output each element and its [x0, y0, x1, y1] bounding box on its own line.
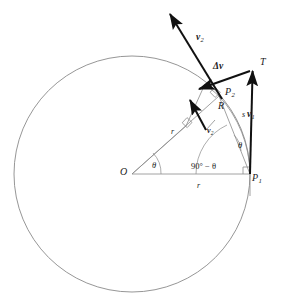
- label-angle-center-theta: θ: [152, 161, 156, 170]
- label-angle-p1-theta: θ: [238, 141, 242, 150]
- label-delta-v: Δv: [213, 62, 223, 72]
- vector-v2-translated: [190, 100, 206, 130]
- label-origin: O: [120, 167, 127, 177]
- label-tangent-point-t: T: [260, 57, 266, 67]
- radius-diagonal-extension: [132, 126, 186, 174]
- label-v2-base: v: [196, 32, 200, 42]
- label-vector-v2: v2: [196, 33, 204, 43]
- label-p2-subscript: 2: [231, 91, 234, 98]
- label-v1-base: v: [247, 109, 251, 119]
- label-radius-diagonal: r: [171, 128, 174, 136]
- label-v2-subscript: 2: [201, 36, 204, 43]
- label-v2-inner-subscript: 2: [211, 130, 214, 136]
- label-point-p2: P2: [225, 87, 235, 99]
- label-arc-s: s: [242, 111, 245, 119]
- label-vector-v1: v1: [247, 110, 255, 120]
- label-radius-horizontal: r: [197, 182, 200, 190]
- label-p1-subscript: 1: [258, 177, 261, 184]
- diagram-canvas: [0, 0, 285, 307]
- physics-diagram-figure: O P1 P2 T r r R s v1 v2 v2 Δv θ θ 90° − …: [0, 0, 285, 307]
- label-chord-r: R: [218, 101, 224, 111]
- label-v1-subscript: 1: [252, 113, 255, 120]
- label-angle-complement: 90° − θ: [191, 162, 216, 171]
- vector-v1: [250, 71, 253, 174]
- label-vector-v2-translated: v2: [207, 127, 214, 136]
- label-point-p1: P1: [252, 173, 262, 185]
- vector-v2: [170, 14, 222, 99]
